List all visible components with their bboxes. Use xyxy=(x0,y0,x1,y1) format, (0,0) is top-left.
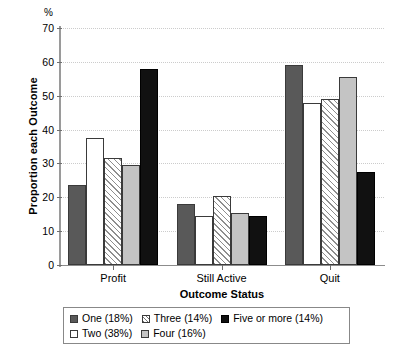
y-axis-title: Proportion each Outcome xyxy=(27,51,39,241)
legend-label: Four (16%) xyxy=(153,328,206,339)
legend-label: Five or more (14%) xyxy=(233,313,323,324)
y-tick-label: 10 xyxy=(30,226,54,236)
y-axis-unit-symbol: % xyxy=(44,7,53,18)
y-tick-label: 20 xyxy=(30,192,54,202)
legend-item[interactable]: One (18%) xyxy=(70,313,133,324)
bar xyxy=(104,158,122,265)
legend-item[interactable]: Three (14%) xyxy=(142,313,212,324)
bar xyxy=(195,216,213,265)
y-tick-label: 50 xyxy=(30,91,54,101)
bar-group xyxy=(285,28,375,265)
y-tick-label: 30 xyxy=(30,158,54,168)
bar-group xyxy=(177,28,267,265)
x-tick-mark xyxy=(113,265,114,270)
legend-row: Two (38%)Four (16%) xyxy=(70,326,345,341)
bar xyxy=(140,69,158,265)
bar xyxy=(321,99,339,265)
bar xyxy=(339,77,357,265)
bar xyxy=(357,172,375,265)
bar xyxy=(249,216,267,265)
bar xyxy=(231,213,249,265)
legend-swatch-icon xyxy=(70,315,78,323)
y-tick-label: 60 xyxy=(30,57,54,67)
bar-group xyxy=(68,28,158,265)
legend-label: Three (14%) xyxy=(154,313,212,324)
x-tick-label: Quit xyxy=(270,272,390,284)
legend-item[interactable]: Five or more (14%) xyxy=(221,313,323,324)
legend-row: One (18%)Three (14%)Five or more (14%) xyxy=(70,311,345,326)
bar-cluster xyxy=(177,28,267,265)
x-tick-label: Profit xyxy=(53,272,173,284)
bar-cluster xyxy=(68,28,158,265)
x-axis-title: Outcome Status xyxy=(59,288,385,300)
y-tick-label: 70 xyxy=(30,23,54,33)
bar xyxy=(303,103,321,266)
y-tick-mark xyxy=(57,265,62,266)
legend-label: One (18%) xyxy=(82,313,133,324)
chart-legend: One (18%)Three (14%)Five or more (14%)Tw… xyxy=(63,307,350,344)
bar xyxy=(86,138,104,265)
x-tick-mark xyxy=(222,265,223,270)
bar-cluster xyxy=(285,28,375,265)
x-tick-mark xyxy=(330,265,331,270)
legend-swatch-icon xyxy=(141,330,149,338)
legend-swatch-icon xyxy=(221,315,229,323)
bar xyxy=(213,196,231,265)
legend-item[interactable]: Two (38%) xyxy=(70,328,132,339)
bar-chart: % Proportion each Outcome 01020304050607… xyxy=(0,0,396,357)
bar xyxy=(122,165,140,265)
y-tick-label: 40 xyxy=(30,125,54,135)
x-tick-label: Still Active xyxy=(162,272,282,284)
legend-swatch-icon xyxy=(142,315,150,323)
bar-groups xyxy=(59,28,384,265)
bar xyxy=(285,65,303,265)
bar xyxy=(177,204,195,265)
legend-label: Two (38%) xyxy=(82,328,132,339)
y-tick-label: 0 xyxy=(30,260,54,270)
bar xyxy=(68,185,86,265)
legend-item[interactable]: Four (16%) xyxy=(141,328,206,339)
legend-swatch-icon xyxy=(70,330,78,338)
